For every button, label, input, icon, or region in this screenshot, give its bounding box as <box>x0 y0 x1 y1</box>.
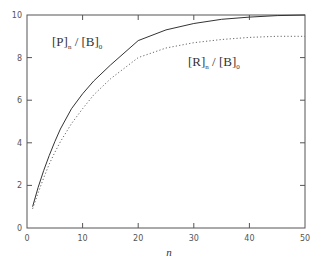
x-axis-label: n <box>166 246 172 258</box>
annotation-r-sep: / <box>209 54 219 69</box>
x-axis-tick-labels: 0 10 20 30 40 50 <box>24 234 310 243</box>
y-tick-label-2: 2 <box>17 181 22 190</box>
series-line-r-over-b <box>33 36 305 209</box>
y-tick-label-6: 6 <box>17 96 22 105</box>
y-tick-label-10: 10 <box>12 11 22 20</box>
annotation-r-main: [R] <box>188 54 205 69</box>
y-axis-ticks <box>27 58 305 186</box>
y-tick-label-8: 8 <box>17 54 22 63</box>
x-tick-label-30: 30 <box>189 234 199 243</box>
y-tick-label-4: 4 <box>17 139 22 148</box>
annotation-p-denominator: [B] <box>82 34 99 49</box>
x-tick-label-20: 20 <box>133 234 143 243</box>
x-tick-label-0: 0 <box>24 234 29 243</box>
annotation-r-denominator: [B] <box>219 54 236 69</box>
annotation-p-denominator-sub: 0 <box>99 43 103 51</box>
x-axis-ticks <box>83 15 250 228</box>
annotation-p-over-b: [P]n / [B]0 <box>52 34 103 51</box>
x-tick-label-40: 40 <box>244 234 254 243</box>
annotation-r-denominator-sub: 0 <box>236 63 240 71</box>
annotation-r-over-b: [R]n / [B]0 <box>188 54 240 71</box>
x-tick-label-50: 50 <box>300 234 310 243</box>
y-tick-label-0: 0 <box>17 224 22 233</box>
x-tick-label-10: 10 <box>78 234 88 243</box>
y-axis-tick-labels: 0 2 4 6 8 10 <box>12 11 22 233</box>
line-chart: 0 10 20 30 40 50 0 2 4 6 8 10 [P]n / [B]… <box>0 0 322 268</box>
annotation-p-sep: / <box>71 34 81 49</box>
annotation-p-main: [P] <box>52 34 68 49</box>
